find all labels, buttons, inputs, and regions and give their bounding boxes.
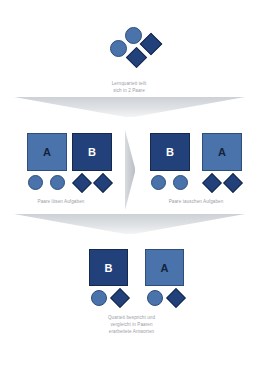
pair-square-a: A [27,133,67,171]
discuss-a-diamond [166,288,186,308]
discuss-b-circle [91,290,107,306]
quartet-circle-2 [125,27,142,44]
stage-quartet-discuss-caption: Quartett bespricht und vergleicht in Paa… [79,314,184,335]
exchange-b-member-1 [151,175,166,190]
stage-pairs-solve: A B Paare lösen Aufgaben [0,128,122,212]
stage-pairs-exchange: B A Paare tauschen Aufgaben [140,128,259,212]
discuss-square-b: B [89,249,128,286]
quartet-diamond-1 [126,47,147,68]
pair-b-member-2 [93,173,113,193]
stage-pairs-exchange-caption: Paare tauschen Aufgaben [146,198,246,205]
arrow-right-icon [124,130,136,210]
lernquartett-diagram: Lernquartett teilt sich in 2 Paare A B P… [0,0,259,366]
stage-pairs-solve-caption: Paare lösen Aufgaben [11,198,111,205]
exchange-square-b: B [150,133,190,171]
exchange-a-member-2 [223,173,243,193]
discuss-a-circle [147,290,163,306]
chevron-down-icon [14,96,245,118]
connector-bottom [14,213,245,235]
connector-middle [124,130,136,210]
chevron-down-icon [14,213,245,235]
connector-top [14,96,245,118]
exchange-b-member-2 [173,175,188,190]
pair-a-member-2 [50,175,65,190]
stage-quartet: Lernquartett teilt sich in 2 Paare [0,0,259,100]
quartet-circle-1 [110,40,127,57]
pair-a-member-1 [28,175,43,190]
discuss-square-a: A [145,249,184,286]
stage-quartet-caption: Lernquartett teilt sich in 2 Paare [79,80,179,94]
exchange-a-member-1 [202,173,222,193]
stage-quartet-discuss: B A Quartett bespricht und vergleicht in… [0,244,259,344]
discuss-b-diamond [110,288,130,308]
quartet-diamond-2 [140,33,163,56]
exchange-square-a: A [202,133,242,171]
pair-b-member-1 [72,173,92,193]
pair-square-b: B [72,133,112,171]
